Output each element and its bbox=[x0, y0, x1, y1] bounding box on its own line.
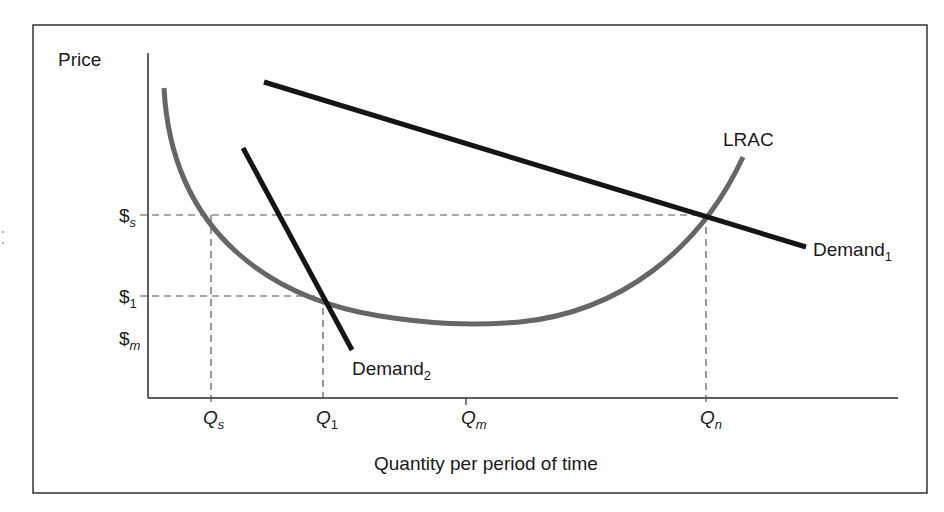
x-tick-qty-n: Qn bbox=[700, 407, 722, 432]
x-tick-qty-m: Qm bbox=[461, 407, 487, 432]
x-tick-qty-m-main: Q bbox=[461, 407, 476, 428]
y-tick-price-1-sub: 1 bbox=[130, 296, 137, 311]
demand1-label: Demand1 bbox=[813, 239, 892, 264]
y-tick-price-m-sub: m bbox=[130, 338, 141, 353]
y-tick-price-m-main: $ bbox=[119, 328, 130, 349]
demand2-label-sub: 2 bbox=[424, 368, 431, 383]
y-axis-title: Price bbox=[58, 49, 101, 70]
demand2-label-main: Demand bbox=[352, 358, 424, 379]
x-axis-title: Quantity per period of time bbox=[374, 453, 598, 474]
lrac-curve bbox=[164, 88, 743, 324]
demand2-label: Demand2 bbox=[352, 358, 431, 383]
y-tick-price-s-sub: s bbox=[130, 215, 137, 230]
x-tick-qty-s: Qs bbox=[203, 407, 225, 432]
lrac-label: LRAC bbox=[723, 129, 774, 150]
x-tick-qty-1: Q1 bbox=[316, 407, 338, 432]
y-tick-price-1-main: $ bbox=[119, 286, 130, 307]
demand2-line bbox=[243, 148, 352, 350]
lrac-demand-diagram: Price Quantity per period of time LRAC D… bbox=[0, 0, 944, 512]
y-tick-price-m: $m bbox=[119, 328, 141, 353]
x-tick-qty-s-main: Q bbox=[203, 407, 218, 428]
demand1-label-main: Demand bbox=[813, 239, 885, 260]
x-tick-qty-m-sub: m bbox=[476, 417, 487, 432]
x-tick-qty-n-main: Q bbox=[700, 407, 715, 428]
scan-mark bbox=[2, 231, 4, 244]
y-tick-price-1: $1 bbox=[119, 286, 137, 311]
x-tick-qty-1-sub: 1 bbox=[331, 417, 338, 432]
demand1-line bbox=[264, 82, 806, 247]
y-tick-price-s: $s bbox=[119, 205, 137, 230]
x-tick-qty-s-sub: s bbox=[218, 417, 225, 432]
x-tick-qty-1-main: Q bbox=[316, 407, 331, 428]
y-tick-price-s-main: $ bbox=[119, 205, 130, 226]
x-tick-qty-n-sub: n bbox=[715, 417, 722, 432]
demand1-label-sub: 1 bbox=[885, 249, 892, 264]
